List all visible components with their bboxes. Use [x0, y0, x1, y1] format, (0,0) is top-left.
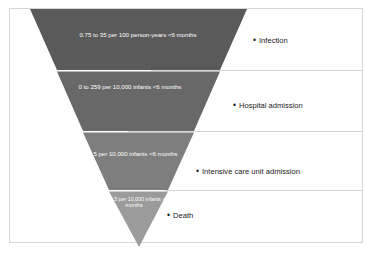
outcome-label-4-text: Death: [173, 211, 193, 220]
outcome-label-1-text: Infection: [259, 36, 288, 45]
bullet-icon: •: [196, 167, 199, 176]
outcome-label-2-text: Hospital admission: [239, 101, 303, 110]
funnel-shape: [0, 0, 373, 264]
figure-canvas: 0.75 to 35 per 100 person-years <6 month…: [0, 0, 373, 264]
funnel-band-2-shape: [57, 72, 220, 132]
funnel-band-1-shape: [30, 9, 247, 70]
funnel-band-4-shape: [109, 192, 168, 248]
bullet-icon: •: [233, 101, 236, 110]
outcome-label-icu-admission: •Intensive care unit admission: [196, 167, 300, 176]
bullet-icon: •: [167, 211, 170, 220]
outcome-label-infection: •Infection: [253, 36, 288, 45]
outcome-label-3-text: Intensive care unit admission: [202, 167, 300, 176]
outcome-label-hospital-admission: •Hospital admission: [233, 101, 303, 110]
outcome-label-death: •Death: [167, 211, 193, 220]
bullet-icon: •: [253, 36, 256, 45]
funnel-band-3-shape: [83, 133, 194, 191]
